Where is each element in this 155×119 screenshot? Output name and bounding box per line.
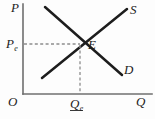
- supply-curve-label: S: [130, 3, 137, 16]
- origin-label: O: [8, 95, 17, 108]
- price-axis-label: P: [11, 1, 19, 14]
- equilibrium-quantity-tick-label: Qe: [70, 97, 83, 111]
- supply-demand-diagram: P Pe O Qe Q S D E: [0, 0, 155, 119]
- equilibrium-price-subscript: e: [14, 44, 18, 53]
- equilibrium-quantity-subscript: e: [80, 104, 84, 113]
- equilibrium-point-label: E: [88, 38, 96, 51]
- demand-curve-label: D: [124, 63, 133, 76]
- equilibrium-quantity-symbol: Q: [70, 96, 79, 111]
- equilibrium-price-tick-label: Pe: [6, 37, 18, 50]
- quantity-axis-label: Q: [136, 95, 145, 108]
- equilibrium-price-symbol: P: [6, 36, 14, 51]
